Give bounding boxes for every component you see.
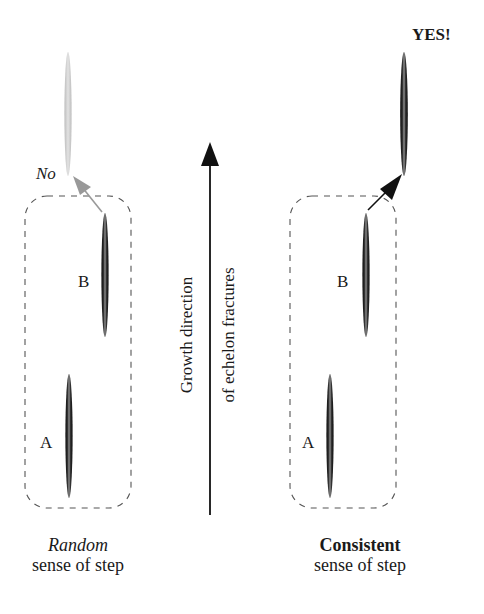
right-caption-subtitle: sense of step	[314, 555, 406, 575]
right-panel-consistent: YES! B A Consistent sense of step	[290, 25, 451, 575]
fracture-b-label: B	[337, 272, 348, 291]
fracture-a-label: A	[302, 433, 315, 452]
right-caption-title: Consistent	[319, 535, 400, 555]
step-arrow-shaft-black	[368, 191, 387, 210]
fracture-projected	[400, 52, 408, 176]
echelon-fracture-diagram: No B A Random sense of step Growth direc…	[0, 0, 484, 614]
fracture-a-label: A	[40, 433, 53, 452]
fracture-a	[326, 374, 333, 498]
fracture-projected-faded	[64, 52, 71, 176]
step-arrowhead-black	[380, 174, 402, 200]
fracture-b-label: B	[78, 272, 89, 291]
left-caption-title: Random	[47, 535, 108, 555]
left-panel-random: No B A Random sense of step	[25, 52, 131, 575]
fracture-a	[65, 374, 72, 498]
fracture-b	[362, 213, 369, 337]
dashed-grouping-box	[25, 196, 131, 508]
growth-direction-label-line1: Growth direction	[177, 276, 196, 393]
dashed-grouping-box	[290, 196, 396, 508]
arrowhead-up-icon	[201, 142, 219, 166]
outcome-yes-label: YES!	[412, 25, 451, 44]
step-arrowhead-gray	[73, 176, 91, 195]
outcome-no-label: No	[35, 164, 56, 183]
fracture-b	[101, 213, 108, 337]
left-caption-subtitle: sense of step	[32, 555, 124, 575]
growth-direction-arrow: Growth direction of echelon fractures	[177, 142, 238, 515]
growth-direction-label-line2: of echelon fractures	[219, 268, 238, 403]
